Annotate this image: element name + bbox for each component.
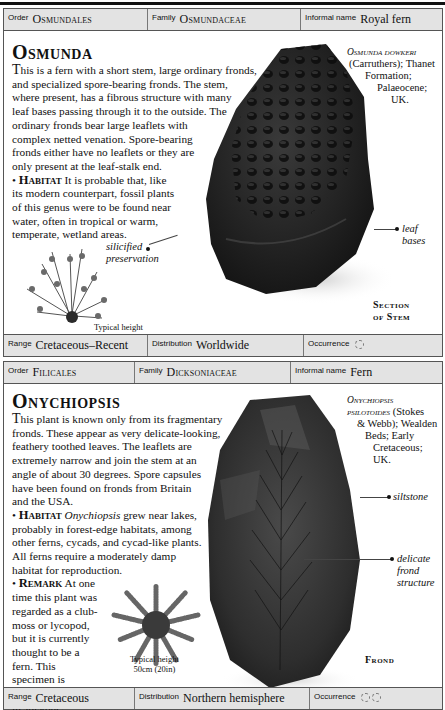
range-value: Cretaceous–Recent — [36, 338, 129, 353]
informal-name-value: Royal fern — [360, 12, 411, 27]
range-cell: Range Cretaceous–Recent — [4, 335, 148, 356]
fern-plant-illustration — [12, 244, 112, 324]
classification-bar: Order Osmundales Family Osmundaceae Info… — [4, 9, 442, 31]
informal-name-label: Informal name — [305, 13, 356, 22]
description-line: and the USA. — [12, 495, 242, 509]
order-label: Order — [8, 366, 28, 375]
annotation-leader-line — [360, 497, 388, 498]
description-line: feathery toothed leaves. The leaflets ar… — [12, 440, 242, 454]
range-value: Cretaceous — [36, 691, 89, 706]
habitat-line: probably in forest-edge habitats, among — [12, 523, 242, 537]
image-caption: Section of Stem — [373, 299, 410, 323]
dashed-circle-icon — [355, 340, 364, 349]
specimen-info: Onychiopsis psilotoides (Stokes & Webb);… — [347, 394, 437, 466]
habitat-line: its modern counterpart, fossil plants — [12, 187, 342, 201]
description-line: complex netted venation. Spore-bearing — [12, 133, 342, 147]
habitat-line: All ferns require a moderately damp — [12, 550, 242, 564]
annotation-delicate-frond-structure: delicate frond structure — [397, 553, 435, 589]
dashed-circle-icon — [372, 693, 381, 702]
order-label: Order — [8, 13, 28, 22]
description-line: fronds. These appear as very delicate-lo… — [12, 427, 242, 441]
classification-bar: Order Filicales Family Dicksoniaceae Inf… — [4, 362, 442, 384]
specimen-name-genus: Onychiopsis — [347, 394, 437, 406]
top-rule — [0, 2, 445, 5]
order-value: Filicales — [32, 365, 76, 380]
specimen-info: Osmunda dowkeri (Carruthers); Thanet For… — [347, 46, 435, 106]
order-value: Osmundales — [32, 12, 92, 27]
order-cell: Order Filicales — [4, 362, 135, 383]
habitat-line: • Habitat Onychiopsis grew near lakes, — [12, 509, 242, 523]
occurrence-label: Occurrence — [314, 692, 355, 701]
order-cell: Order Osmundales — [4, 9, 148, 30]
family-cell: Family Osmundaceae — [148, 9, 301, 30]
occurrence-cell: Occurrence — [304, 335, 442, 356]
description-line: ordinary fronds bear large leaflets with — [12, 119, 342, 133]
family-label: Family — [139, 366, 163, 375]
description-line: have been found on fronds from Britain — [12, 482, 242, 496]
habitat-line: of this genus were to be found near — [12, 201, 342, 215]
distribution-cell: Distribution Northern hemisphere — [135, 688, 310, 709]
range-label: Range — [8, 339, 32, 348]
description-line: angle of about 30 degrees. Spore capsule… — [12, 468, 242, 482]
image-caption: Frond — [365, 654, 394, 666]
description-line: leaf bases passing through it to the out… — [12, 105, 342, 119]
description-line: This is a fern with a short stem, large … — [12, 63, 342, 78]
remark-heading: Remark — [19, 576, 63, 590]
remark-line: specimen is — [12, 673, 242, 687]
annotation-pointer-dot — [390, 557, 394, 561]
description-line: extremely narrow and join the stem at an — [12, 454, 242, 468]
distribution-value: Northern hemisphere — [183, 691, 285, 706]
habitat-line: water, often in tropical or warm, — [12, 215, 342, 229]
description-line: where present, has a fibrous structure w… — [12, 91, 342, 105]
distribution-cell: Distribution Worldwide — [148, 335, 304, 356]
family-value: Dicksoniaceae — [167, 365, 237, 380]
description: This is a fern with a short stem, large … — [12, 63, 342, 242]
description-line: This plant is known only from its fragme… — [12, 412, 242, 427]
entry-osmunda: Order Osmundales Family Osmundaceae Info… — [3, 8, 443, 357]
range-bar: Range Cretaceous Distribution Northern h… — [4, 687, 442, 709]
range-bar: Range Cretaceous–Recent Distribution Wor… — [4, 334, 442, 356]
annotation-pointer-dot — [395, 227, 399, 231]
informal-name-cell: Informal name Fern — [291, 362, 442, 383]
entry-title: Osmunda — [12, 41, 93, 64]
annotation-pointer-dot — [146, 247, 150, 251]
habitat-line: other ferns, cycads, and cycad-like plan… — [12, 536, 242, 550]
specimen-name-species: psilotoides — [347, 407, 390, 417]
description-line: only present at the leaf-stalk end. — [12, 160, 342, 174]
range-label: Range — [8, 692, 32, 701]
description-line: fronds either have no leaflets or they a… — [12, 146, 342, 160]
distribution-label: Distribution — [152, 339, 192, 348]
annotation-leaf-bases: leaf bases — [402, 223, 442, 247]
distribution-value: Worldwide — [196, 338, 249, 353]
habitat-line: • Habitat It is probable that, like — [12, 174, 342, 188]
entry-onychiopsis: Order Filicales Family Dicksoniaceae Inf… — [3, 361, 443, 710]
range-cell: Range Cretaceous — [4, 688, 135, 709]
family-label: Family — [152, 13, 176, 22]
dashed-circle-icon — [361, 693, 370, 702]
specimen-name: Osmunda dowkeri — [347, 46, 435, 58]
annotation-leader-line — [374, 229, 396, 230]
habitat-line: habitat for reproduction. — [12, 564, 242, 578]
informal-name-value: Fern — [350, 365, 372, 380]
occurrence-cell: Occurrence — [310, 688, 442, 709]
family-cell: Family Dicksoniaceae — [135, 362, 291, 383]
family-value: Osmundaceae — [180, 12, 246, 27]
entry-title: Onychiopsis — [12, 390, 120, 413]
informal-name-label: Informal name — [295, 366, 346, 375]
annotation-leader-line — [304, 559, 392, 560]
habitat-heading: Habitat — [19, 508, 62, 522]
typical-height-caption: Typical height 50cm (20in) — [130, 654, 179, 674]
annotation-siltstone: siltstone — [393, 491, 428, 503]
annotation-pointer-dot — [387, 495, 391, 499]
occurrence-label: Occurrence — [308, 339, 349, 348]
informal-name-cell: Informal name Royal fern — [301, 9, 442, 30]
description-line: and specialized spore-bearing fronds. Th… — [12, 78, 342, 92]
annotation-silicified-preservation: silicified preservation — [106, 241, 159, 265]
distribution-label: Distribution — [139, 692, 179, 701]
habitat-heading: Habitat — [19, 173, 62, 187]
